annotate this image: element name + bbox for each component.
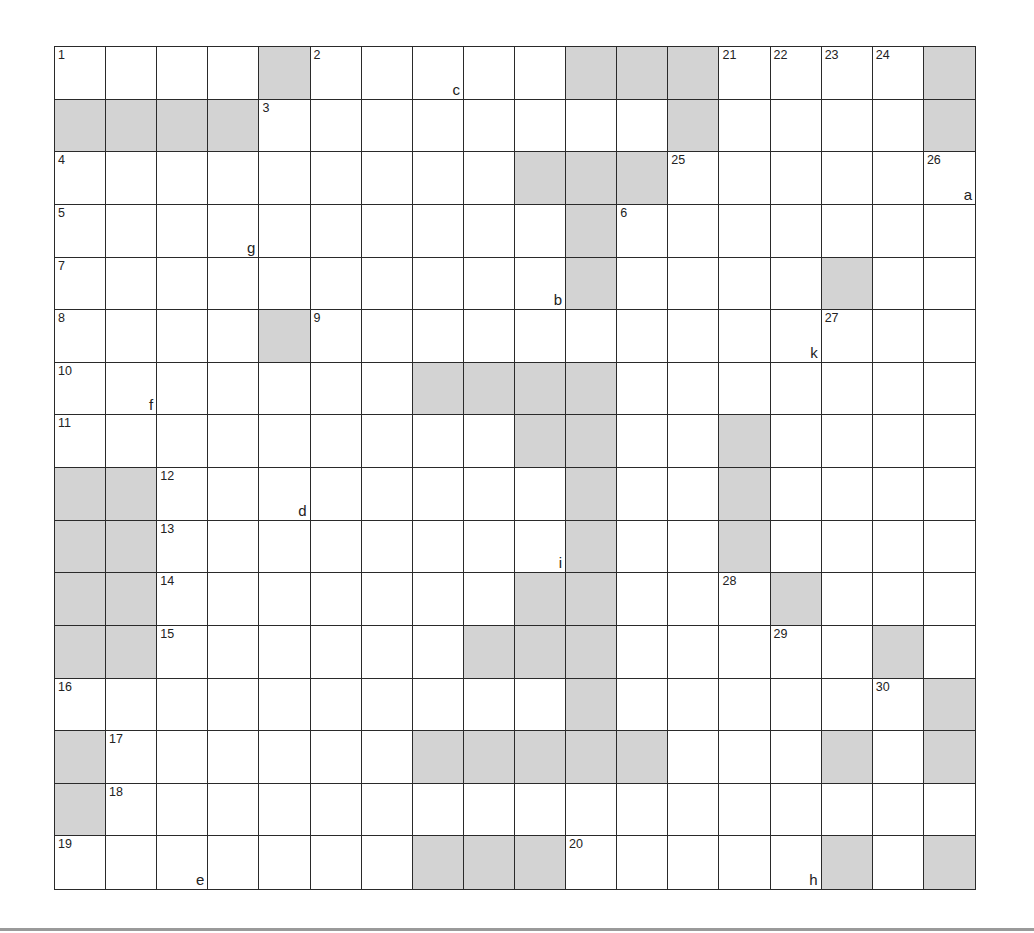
answer-cell[interactable]	[771, 468, 822, 521]
answer-cell[interactable]	[617, 258, 668, 311]
answer-cell[interactable]	[873, 152, 924, 205]
answer-cell[interactable]	[822, 363, 873, 416]
answer-cell[interactable]	[259, 521, 310, 574]
answer-cell[interactable]: 28	[719, 573, 770, 626]
answer-cell[interactable]	[311, 784, 362, 837]
answer-cell[interactable]	[413, 415, 464, 468]
answer-cell[interactable]	[362, 205, 413, 258]
answer-cell[interactable]	[719, 784, 770, 837]
answer-cell[interactable]	[617, 679, 668, 732]
answer-cell[interactable]	[311, 468, 362, 521]
answer-cell[interactable]	[208, 152, 259, 205]
answer-cell[interactable]	[873, 731, 924, 784]
answer-cell[interactable]	[259, 152, 310, 205]
answer-cell[interactable]	[464, 468, 515, 521]
answer-cell[interactable]	[259, 731, 310, 784]
answer-cell[interactable]	[617, 415, 668, 468]
answer-cell[interactable]	[771, 679, 822, 732]
answer-cell[interactable]	[822, 626, 873, 679]
answer-cell[interactable]	[413, 258, 464, 311]
answer-cell[interactable]: i	[515, 521, 566, 574]
answer-cell[interactable]	[311, 152, 362, 205]
answer-cell[interactable]: 25	[668, 152, 719, 205]
answer-cell[interactable]	[924, 258, 975, 311]
answer-cell[interactable]: g	[208, 205, 259, 258]
answer-cell[interactable]	[873, 573, 924, 626]
answer-cell[interactable]: 12	[157, 468, 208, 521]
answer-cell[interactable]	[617, 521, 668, 574]
answer-cell[interactable]	[106, 310, 157, 363]
answer-cell[interactable]	[362, 521, 413, 574]
answer-cell[interactable]	[208, 784, 259, 837]
answer-cell[interactable]: 7	[55, 258, 106, 311]
answer-cell[interactable]	[157, 679, 208, 732]
answer-cell[interactable]	[668, 258, 719, 311]
answer-cell[interactable]	[924, 626, 975, 679]
answer-cell[interactable]	[566, 784, 617, 837]
answer-cell[interactable]	[259, 363, 310, 416]
answer-cell[interactable]	[259, 679, 310, 732]
answer-cell[interactable]	[464, 258, 515, 311]
answer-cell[interactable]: 29	[771, 626, 822, 679]
answer-cell[interactable]	[413, 152, 464, 205]
answer-cell[interactable]	[873, 310, 924, 363]
answer-cell[interactable]	[362, 415, 413, 468]
answer-cell[interactable]	[515, 47, 566, 100]
answer-cell[interactable]	[311, 521, 362, 574]
answer-cell[interactable]: 5	[55, 205, 106, 258]
answer-cell[interactable]: h	[771, 836, 822, 889]
answer-cell[interactable]	[362, 836, 413, 889]
answer-cell[interactable]	[157, 415, 208, 468]
answer-cell[interactable]	[617, 626, 668, 679]
answer-cell[interactable]	[413, 468, 464, 521]
answer-cell[interactable]	[924, 415, 975, 468]
answer-cell[interactable]: k	[771, 310, 822, 363]
answer-cell[interactable]: f	[106, 363, 157, 416]
answer-cell[interactable]: 4	[55, 152, 106, 205]
answer-cell[interactable]	[208, 626, 259, 679]
answer-cell[interactable]: 23	[822, 47, 873, 100]
answer-cell[interactable]	[208, 310, 259, 363]
answer-cell[interactable]	[617, 100, 668, 153]
answer-cell[interactable]: 14	[157, 573, 208, 626]
answer-cell[interactable]	[668, 415, 719, 468]
answer-cell[interactable]	[106, 415, 157, 468]
answer-cell[interactable]: e	[157, 836, 208, 889]
answer-cell[interactable]	[822, 679, 873, 732]
answer-cell[interactable]	[259, 205, 310, 258]
answer-cell[interactable]	[106, 258, 157, 311]
answer-cell[interactable]	[771, 784, 822, 837]
answer-cell[interactable]	[311, 626, 362, 679]
answer-cell[interactable]: 27	[822, 310, 873, 363]
answer-cell[interactable]	[822, 784, 873, 837]
answer-cell[interactable]	[668, 679, 719, 732]
answer-cell[interactable]	[719, 310, 770, 363]
answer-cell[interactable]	[873, 205, 924, 258]
answer-cell[interactable]	[668, 468, 719, 521]
answer-cell[interactable]	[311, 836, 362, 889]
answer-cell[interactable]	[515, 310, 566, 363]
answer-cell[interactable]	[413, 100, 464, 153]
answer-cell[interactable]	[873, 468, 924, 521]
answer-cell[interactable]	[873, 784, 924, 837]
answer-cell[interactable]: 1	[55, 47, 106, 100]
answer-cell[interactable]	[208, 47, 259, 100]
answer-cell[interactable]	[311, 679, 362, 732]
answer-cell[interactable]	[464, 100, 515, 153]
answer-cell[interactable]	[771, 363, 822, 416]
answer-cell[interactable]	[362, 363, 413, 416]
answer-cell[interactable]	[719, 836, 770, 889]
answer-cell[interactable]	[668, 310, 719, 363]
answer-cell[interactable]	[771, 415, 822, 468]
answer-cell[interactable]: 19	[55, 836, 106, 889]
answer-cell[interactable]	[515, 679, 566, 732]
answer-cell[interactable]	[924, 573, 975, 626]
answer-cell[interactable]	[311, 258, 362, 311]
answer-cell[interactable]	[464, 679, 515, 732]
answer-cell[interactable]	[668, 205, 719, 258]
answer-cell[interactable]	[464, 573, 515, 626]
answer-cell[interactable]	[362, 679, 413, 732]
answer-cell[interactable]	[719, 679, 770, 732]
answer-cell[interactable]	[362, 731, 413, 784]
answer-cell[interactable]: c	[413, 47, 464, 100]
